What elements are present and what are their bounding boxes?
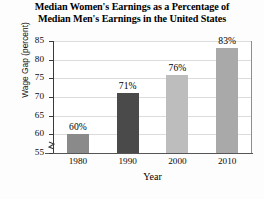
y-axis-tick [49, 60, 53, 61]
y-axis-tick [49, 134, 53, 135]
bar-value-label-1980: 60% [58, 121, 98, 132]
x-axis-line [45, 153, 253, 154]
y-axis-tick-label: 70 [22, 91, 44, 101]
chart-figure: Median Women's Earnings as a Percentage … [0, 0, 264, 199]
x-axis-tick-label-2000: 2000 [157, 156, 197, 166]
chart-title-line-2: Median Men's Earnings in the United Stat… [0, 13, 264, 25]
x-axis-tick-label-1990: 1990 [108, 156, 148, 166]
bar-2000 [166, 75, 188, 153]
y-axis-tick [49, 153, 53, 154]
chart-title-line-1: Median Women's Earnings as a Percentage … [0, 1, 264, 13]
bar-1990 [117, 93, 139, 153]
chart-title: Median Women's Earnings as a Percentage … [0, 1, 264, 24]
bar-2010 [216, 48, 238, 153]
y-axis-tick-label: 60 [22, 128, 44, 138]
y-axis-tick-label: 65 [22, 110, 44, 120]
x-axis-title: Year [53, 171, 252, 182]
y-axis-tick-label: 55 [22, 147, 44, 157]
x-axis-tick-label-2010: 2010 [207, 156, 247, 166]
y-axis-tick-label: 80 [22, 54, 44, 64]
y-axis-tick [49, 116, 53, 117]
y-axis-tick [49, 97, 53, 98]
x-axis-tick-label-1980: 1980 [58, 156, 98, 166]
bar-value-label-1990: 71% [108, 80, 148, 91]
bar-value-label-2010: 83% [207, 35, 247, 46]
bar-1980 [67, 134, 89, 153]
y-axis-tick [49, 78, 53, 79]
y-axis-tick-label: 75 [22, 72, 44, 82]
y-axis-tick [49, 41, 53, 42]
y-axis-tick-label: 85 [22, 35, 44, 45]
bar-value-label-2000: 76% [157, 62, 197, 73]
y-axis-break-icon [48, 140, 59, 152]
